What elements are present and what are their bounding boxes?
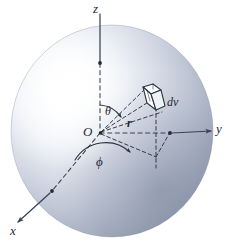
axis-label-y: y [216, 122, 222, 135]
radius-label: r [127, 117, 132, 129]
origin-label: O [83, 125, 92, 138]
theta-angle-label: θ [105, 105, 111, 117]
figure-canvas [0, 0, 234, 242]
sphere-group [11, 25, 213, 237]
axis-label-x: x [10, 224, 16, 237]
sphere-specular-highlight [11, 25, 213, 237]
spherical-coordinates-figure: z y x O r dv θ ϕ [0, 0, 234, 242]
origin-point [99, 131, 103, 135]
axis-z-intersection-dot [98, 61, 102, 65]
phi-angle-label: ϕ [96, 155, 103, 168]
volume-element-label: dv [167, 96, 178, 108]
axis-label-z: z [93, 2, 98, 15]
axis-x-intersection-dot [50, 189, 54, 193]
